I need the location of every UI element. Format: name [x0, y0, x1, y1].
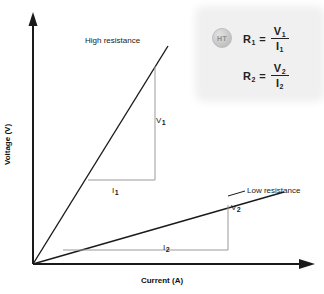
equation-r2-equals: = — [259, 70, 265, 82]
equation-r1: R1 = V1 I1 — [243, 26, 289, 52]
equation-r2: R2 = V2 I2 — [243, 63, 289, 89]
x-axis — [33, 259, 315, 269]
y-axis-label: Voltage (V) — [3, 115, 12, 175]
formula-panel: HT R1 = V1 I1 R2 = V2 I2 — [201, 12, 319, 96]
diagram-canvas: Diagram showing graphs of Ohmic conducto… — [0, 0, 324, 294]
equation-r2-denominator: I2 — [273, 76, 286, 89]
equation-r1-denominator: I1 — [273, 39, 286, 52]
low-resistance-label: Low resistance — [247, 186, 300, 195]
ht-circle-icon: HT — [212, 28, 232, 48]
v1-label: V1 — [156, 116, 166, 125]
equation-r1-numerator: V1 — [271, 26, 289, 38]
x-axis-label: Current (A) — [0, 276, 324, 285]
equation-r1-equals: = — [259, 33, 265, 45]
equation-r2-lhs: R2 — [243, 70, 255, 82]
y-axis — [29, 12, 38, 264]
low-resistance-triangle — [63, 205, 228, 250]
equation-r1-lhs: R1 — [243, 33, 255, 45]
i1-label: I1 — [112, 186, 119, 195]
equation-r2-numerator: V2 — [271, 63, 289, 75]
v2-label: V2 — [231, 203, 241, 212]
low-resistance-leader — [228, 191, 245, 196]
equation-r1-fraction: V1 I1 — [271, 26, 289, 52]
i2-label: I2 — [163, 243, 170, 252]
equation-r2-fraction: V2 I2 — [271, 63, 289, 89]
high-resistance-label: High resistance — [85, 36, 140, 45]
